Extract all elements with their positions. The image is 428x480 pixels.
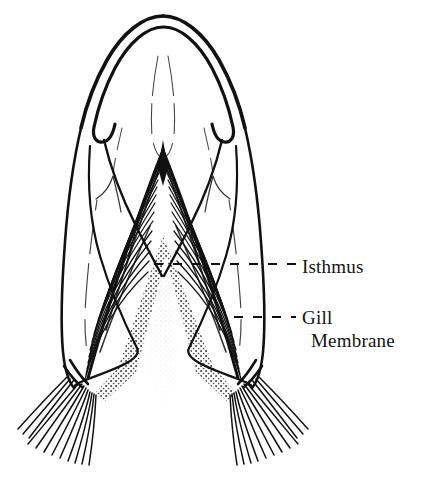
label-isthmus: Isthmus bbox=[302, 255, 364, 278]
membrane-edge-stipple bbox=[80, 230, 250, 410]
label-isthmus-text: Isthmus bbox=[302, 256, 364, 277]
figure-root: Isthmus Gill Membrane bbox=[0, 0, 428, 480]
label-gill-text: Gill bbox=[302, 307, 332, 328]
label-membrane-text: Membrane bbox=[302, 329, 395, 352]
fish-head-illustration bbox=[0, 0, 428, 480]
label-gill-membrane: Gill Membrane bbox=[302, 306, 395, 352]
